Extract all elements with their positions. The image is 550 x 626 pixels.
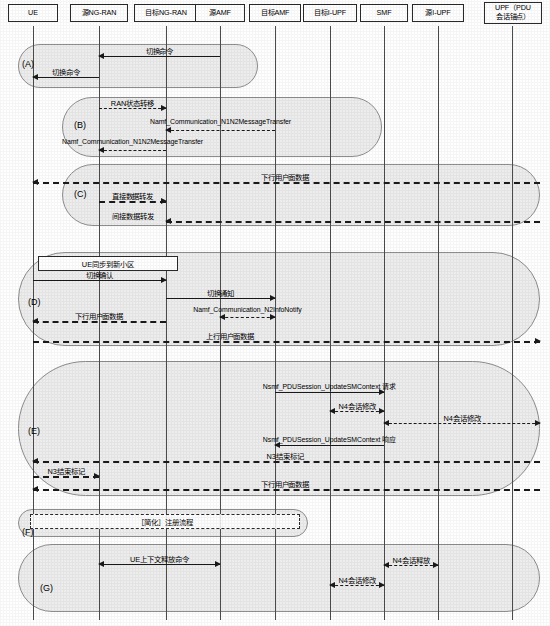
lifeline-tgt_amf (275, 26, 276, 620)
participant-box-ue: UE (8, 4, 58, 22)
arrowhead-right-icon (433, 562, 439, 568)
participant-box-src_ngran: 源NG-RAN (70, 4, 128, 22)
arrowhead-left-icon (32, 74, 38, 80)
message-line (99, 150, 166, 151)
message-line (99, 201, 166, 203)
participant-box-src_amf: 源AMF (195, 4, 245, 22)
message-arrow-m4 (166, 130, 275, 131)
message-line (99, 564, 220, 565)
message-label-m1: 切换命令 (146, 45, 174, 56)
arrowhead-left-icon (98, 147, 104, 153)
arrowhead-right-icon (161, 198, 167, 204)
message-arrow-m2 (33, 77, 99, 78)
phase-label-B: (B) (74, 120, 86, 130)
message-arrow-m6 (33, 182, 540, 183)
message-arrow-m19 (33, 476, 99, 477)
participant-box-smf: SMF (360, 4, 408, 22)
participant-box-upf: UPF（PDU会话锚点） (484, 2, 542, 24)
message-label-m18: N3结束标记 (266, 450, 303, 461)
arrowhead-left-icon (165, 127, 171, 133)
message-label-m13: 上行用户面数据 (206, 330, 255, 341)
message-label-m3: RAN状态转移 (111, 97, 154, 108)
message-arrow-m8 (166, 221, 540, 222)
registration-note: ［简化］注册流程 (30, 514, 300, 529)
lifeline-tgt_ngran (166, 26, 167, 620)
message-arrow-m17 (275, 445, 384, 446)
message-label-m19: N3结束标记 (47, 465, 84, 476)
arrowhead-left-icon (165, 218, 171, 224)
arrowhead-left-icon (383, 562, 389, 568)
lifeline-src_iupf (438, 26, 439, 620)
message-line (33, 77, 99, 78)
arrowhead-right-icon (379, 582, 385, 588)
arrowhead-right-icon (215, 561, 221, 567)
message-label-m20: 下行用户面数据 (261, 478, 310, 489)
arrowhead-right-icon (161, 105, 167, 111)
message-line (33, 461, 540, 463)
arrowhead-left-icon (32, 179, 38, 185)
message-line (33, 182, 540, 184)
message-arrow-m18 (33, 461, 540, 462)
message-line (330, 411, 384, 412)
message-arrow-m21 (99, 564, 220, 565)
message-line (330, 585, 384, 586)
message-line (166, 130, 275, 131)
phase-label-E: (E) (28, 426, 40, 436)
arrowhead-left-icon (98, 561, 104, 567)
arrowhead-right-icon (535, 338, 541, 344)
participant-box-tgt_ngran: 目标NG-RAN (134, 4, 198, 22)
ue-sync-note: UE同步到新小区 (38, 256, 178, 271)
message-arrow-m13 (33, 341, 540, 342)
message-line (384, 565, 438, 566)
lifeline-smf (384, 26, 385, 620)
message-arrow-m23 (330, 585, 384, 586)
message-label-m6: 下行用户面数据 (261, 171, 310, 182)
message-line (220, 317, 275, 318)
arrowhead-right-icon (161, 277, 167, 283)
message-label-m11: Namf_Communication_N2InfoNotify (193, 306, 301, 313)
phase-label-G: (G) (40, 583, 53, 593)
message-arrow-m12 (33, 321, 166, 322)
arrowhead-right-icon (379, 408, 385, 414)
message-arrow-m7 (99, 201, 166, 202)
message-arrow-m20 (33, 489, 540, 490)
message-arrow-m11 (220, 317, 275, 318)
phase-band-G (18, 544, 540, 612)
message-line (33, 280, 166, 281)
message-label-m15: N4会话修改 (338, 400, 375, 411)
message-label-m22: N4会话释放 (392, 554, 429, 565)
message-label-m7: 直接数据转发 (112, 190, 154, 201)
message-label-m17: Nsmf_PDUSession_UpdateSMContext 响应 (263, 434, 396, 444)
message-line (275, 392, 384, 393)
message-label-m4: Namf_Communication_N1N2MessageTransfer (150, 118, 291, 125)
lifeline-tgt_iupf (330, 26, 331, 620)
lifeline-src_amf (220, 26, 221, 620)
message-arrow-m14 (275, 392, 384, 393)
message-line (166, 221, 540, 223)
arrowhead-right-icon (94, 473, 100, 479)
message-label-m8: 间接数据转发 (112, 210, 154, 221)
message-line (33, 489, 540, 491)
message-arrow-m10 (166, 298, 275, 299)
arrowhead-right-icon (535, 420, 541, 426)
phase-label-C: (C) (74, 189, 87, 199)
message-label-m21: UE上下文释放命令 (130, 553, 189, 564)
phase-label-A: (A) (22, 59, 34, 69)
message-line (166, 298, 275, 299)
message-label-m10: 切换通知 (207, 287, 235, 298)
message-arrow-m5 (99, 150, 166, 151)
arrowhead-left-icon (98, 53, 104, 59)
arrowhead-left-icon (383, 420, 389, 426)
participant-box-tgt_iupf: 目标I-UPF (303, 4, 357, 22)
participant-box-src_iupf: 源I-UPF (412, 4, 464, 22)
message-line (33, 341, 540, 343)
message-arrow-m15 (330, 411, 384, 412)
message-arrow-m1 (99, 56, 220, 57)
arrowhead-left-icon (329, 582, 335, 588)
arrowhead-left-icon (32, 486, 38, 492)
message-line (275, 445, 384, 446)
lifeline-upf (512, 26, 513, 620)
message-line (33, 321, 166, 323)
message-arrow-m22 (384, 565, 438, 566)
arrowhead-left-icon (32, 458, 38, 464)
